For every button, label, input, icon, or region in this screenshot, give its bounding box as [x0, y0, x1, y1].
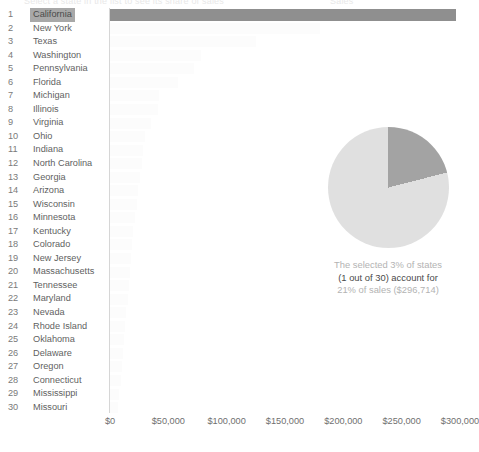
- list-item[interactable]: 18Colorado: [0, 238, 104, 252]
- list-item-rank: 10: [8, 130, 24, 144]
- list-item[interactable]: 7Michigan: [0, 89, 104, 103]
- bar-row[interactable]: [110, 76, 460, 90]
- bar[interactable]: [110, 389, 119, 400]
- bar-row[interactable]: [110, 374, 460, 388]
- bar[interactable]: [110, 131, 145, 142]
- list-item[interactable]: 27Oregon: [0, 360, 104, 374]
- bar[interactable]: [110, 253, 131, 264]
- list-item[interactable]: 29Mississippi: [0, 387, 104, 401]
- list-item[interactable]: 9Virginia: [0, 116, 104, 130]
- list-item-state-label: Rhode Island: [30, 320, 90, 334]
- clipped-header-right-text: Sales: [330, 0, 354, 6]
- list-item[interactable]: 22Maryland: [0, 292, 104, 306]
- bar[interactable]: [110, 402, 118, 413]
- list-item[interactable]: 17Kentucky: [0, 225, 104, 239]
- bar[interactable]: [110, 63, 194, 74]
- x-axis-tick-labels: $0$50,000$100,000$150,000$200,000$250,00…: [0, 416, 477, 432]
- bar[interactable]: [110, 23, 320, 34]
- list-item[interactable]: 2New York: [0, 22, 104, 36]
- bar-row[interactable]: [110, 306, 460, 320]
- bar[interactable]: [110, 348, 123, 359]
- list-item-state-label: Mississippi: [30, 387, 80, 401]
- list-item[interactable]: 26Delaware: [0, 347, 104, 361]
- bar[interactable]: [110, 185, 138, 196]
- list-item[interactable]: 15Wisconsin: [0, 198, 104, 212]
- bar[interactable]: [110, 172, 140, 183]
- bar-row[interactable]: [110, 35, 460, 49]
- pie-annotation-text: The selected 3% of states (1 out of 30) …: [318, 259, 458, 297]
- bar[interactable]: [110, 145, 143, 156]
- state-rank-list[interactable]: 1California2New York3Texas4Washington5Pe…: [0, 8, 104, 413]
- list-item-state-label: Kentucky: [30, 225, 74, 239]
- list-item-rank: 2: [8, 22, 24, 36]
- list-item[interactable]: 14Arizona: [0, 184, 104, 198]
- bar-row[interactable]: [110, 22, 460, 36]
- list-item[interactable]: 30Missouri: [0, 401, 104, 413]
- list-item-state-label: Pennsylvania: [30, 62, 91, 76]
- list-item[interactable]: 12North Carolina: [0, 157, 104, 171]
- list-item-rank: 18: [8, 238, 24, 252]
- list-item[interactable]: 24Rhode Island: [0, 320, 104, 334]
- bar[interactable]: [110, 361, 122, 372]
- list-item[interactable]: 20Massachusetts: [0, 265, 104, 279]
- bar[interactable]: [110, 158, 142, 169]
- bar[interactable]: [110, 307, 126, 318]
- list-item[interactable]: 8Illinois: [0, 103, 104, 117]
- list-item[interactable]: 11Indiana: [0, 143, 104, 157]
- bar[interactable]: [110, 212, 135, 223]
- list-item-rank: 9: [8, 116, 24, 130]
- list-item[interactable]: 4Washington: [0, 49, 104, 63]
- share-of-sales-pie-chart: [328, 127, 449, 248]
- list-item[interactable]: 23Nevada: [0, 306, 104, 320]
- list-item[interactable]: 19New Jersey: [0, 252, 104, 266]
- bar[interactable]: [110, 104, 158, 115]
- list-item[interactable]: 1California: [0, 8, 104, 22]
- list-item-rank: 6: [8, 76, 24, 90]
- bar-row[interactable]: [110, 347, 460, 361]
- bar-row[interactable]: [110, 103, 460, 117]
- bar[interactable]: [110, 334, 124, 345]
- list-item[interactable]: 13Georgia: [0, 171, 104, 185]
- bar[interactable]: [110, 50, 201, 61]
- bar-row[interactable]: [110, 8, 460, 22]
- list-item-state-label: Nevada: [30, 306, 68, 320]
- bar-row[interactable]: [110, 89, 460, 103]
- bar[interactable]: [110, 239, 132, 250]
- bar[interactable]: [110, 118, 151, 129]
- list-item[interactable]: 6Florida: [0, 76, 104, 90]
- bar[interactable]: [110, 226, 133, 237]
- bar[interactable]: [110, 36, 256, 47]
- list-item[interactable]: 25Oklahoma: [0, 333, 104, 347]
- x-axis-tick: $100,000: [207, 416, 245, 426]
- bar[interactable]: [110, 77, 178, 88]
- bar-row[interactable]: [110, 320, 460, 334]
- list-item-rank: 19: [8, 252, 24, 266]
- bar-row[interactable]: [110, 360, 460, 374]
- list-item[interactable]: 28Connecticut: [0, 374, 104, 388]
- clipped-header-left-text: Select a state in the list to see its sh…: [24, 0, 224, 6]
- bar[interactable]: [110, 321, 125, 332]
- list-item-rank: 4: [8, 49, 24, 63]
- bar[interactable]: [110, 267, 130, 278]
- list-item-state-label: Oklahoma: [30, 333, 78, 347]
- bar[interactable]: [110, 90, 159, 101]
- x-axis-tick: $50,000: [152, 416, 185, 426]
- list-item-state-label: Florida: [30, 76, 64, 90]
- bar[interactable]: [110, 294, 128, 305]
- bar-row[interactable]: [110, 401, 460, 415]
- bar-row[interactable]: [110, 387, 460, 401]
- list-item[interactable]: 10Ohio: [0, 130, 104, 144]
- bar[interactable]: [110, 375, 121, 386]
- bar-row[interactable]: [110, 49, 460, 63]
- bar-row[interactable]: [110, 62, 460, 76]
- bar[interactable]: [110, 9, 456, 21]
- list-item[interactable]: 21Tennessee: [0, 279, 104, 293]
- list-item[interactable]: 16Minnesota: [0, 211, 104, 225]
- share-of-sales-pie-block: The selected 3% of states (1 out of 30) …: [318, 127, 458, 297]
- list-item[interactable]: 3Texas: [0, 35, 104, 49]
- list-item[interactable]: 5Pennsylvania: [0, 62, 104, 76]
- list-item-rank: 29: [8, 387, 24, 401]
- bar[interactable]: [110, 280, 129, 291]
- bar-row[interactable]: [110, 333, 460, 347]
- bar[interactable]: [110, 199, 137, 210]
